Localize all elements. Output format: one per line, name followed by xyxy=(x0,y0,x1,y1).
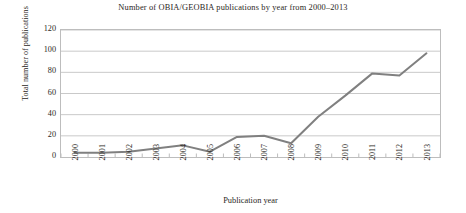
y-tick-label: 0 xyxy=(32,152,56,160)
x-tick-label: 2005 xyxy=(206,142,215,182)
y-axis-tick-labels: 020406080100120 xyxy=(28,0,56,213)
y-tick-label: 120 xyxy=(32,25,56,33)
gridlines xyxy=(61,30,440,136)
x-axis-title: Publication year xyxy=(60,196,441,205)
data-series-line xyxy=(75,53,427,152)
x-axis-tick-marks xyxy=(61,154,440,158)
plot-area xyxy=(60,29,441,158)
x-tick-label: 2012 xyxy=(395,142,404,182)
y-tick-label: 80 xyxy=(32,67,56,75)
x-tick-label: 2002 xyxy=(125,142,134,182)
x-tick-label: 2000 xyxy=(71,142,80,182)
x-tick-label: 2011 xyxy=(368,142,377,182)
x-axis-tick-labels: 2000200120022003200420052006200720082009… xyxy=(60,158,441,198)
y-tick-label: 60 xyxy=(32,89,56,97)
y-tick-label: 20 xyxy=(32,131,56,139)
x-tick-label: 2009 xyxy=(314,142,323,182)
x-tick-label: 2008 xyxy=(287,142,296,182)
x-tick-label: 2003 xyxy=(152,142,161,182)
x-tick-label: 2001 xyxy=(98,142,107,182)
y-tick-label: 40 xyxy=(32,110,56,118)
x-tick-label: 2010 xyxy=(341,142,350,182)
publications-line-chart: Number of OBIA/GEOBIA publications by ye… xyxy=(0,0,466,213)
chart-title: Number of OBIA/GEOBIA publications by ye… xyxy=(0,3,466,12)
plot-svg xyxy=(61,30,440,157)
x-tick-label: 2004 xyxy=(179,142,188,182)
y-tick-label: 100 xyxy=(32,46,56,54)
x-tick-label: 2013 xyxy=(423,142,432,182)
x-tick-label: 2007 xyxy=(260,142,269,182)
x-tick-label: 2006 xyxy=(233,142,242,182)
